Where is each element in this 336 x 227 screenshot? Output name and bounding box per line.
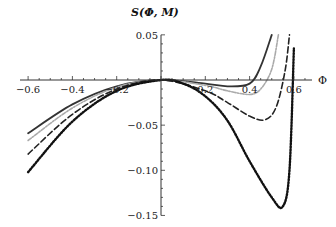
x-axis-title: Φ (318, 74, 327, 87)
y-tick-label: 0.05 (136, 30, 158, 41)
x-tick-label: 0.2 (197, 84, 213, 95)
y-tick-label: −0.05 (127, 120, 158, 131)
y-tick-label: −0.15 (127, 210, 158, 221)
y-tick-label: −0.10 (127, 165, 158, 176)
y-axis-title: S(Φ, M) (131, 6, 179, 19)
x-tick-label: −0.6 (16, 84, 40, 95)
chart: −0.6−0.4−0.20.20.40.60.05−0.05−0.10−0.15… (0, 0, 336, 227)
x-tick-label: −0.4 (60, 84, 84, 95)
x-tick-label: −0.2 (105, 84, 129, 95)
x-tick-label: 0.4 (242, 84, 258, 95)
x-tick-label: 0.6 (286, 84, 302, 95)
